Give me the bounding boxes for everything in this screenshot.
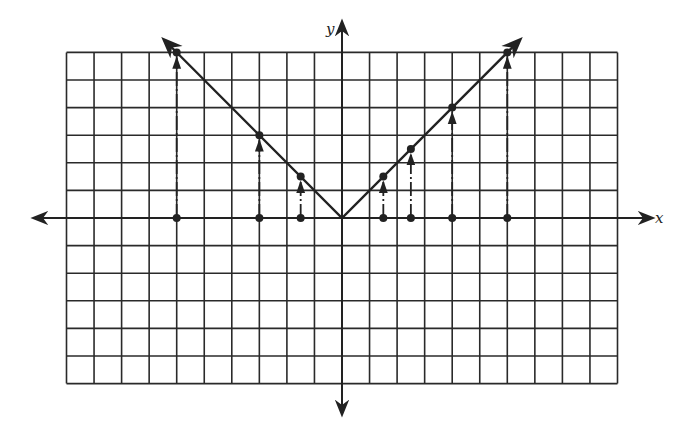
graph-point (503, 48, 511, 56)
x-axis-point (503, 214, 511, 222)
absolute-value-graph: x y (0, 0, 696, 424)
x-axis-point (297, 214, 305, 222)
x-axis-point (448, 214, 456, 222)
x-axis-point (173, 214, 181, 222)
graph-point (255, 131, 263, 139)
graph-point (407, 145, 415, 153)
x-axis-point (379, 214, 387, 222)
graph-point (448, 104, 456, 112)
graph-point (173, 48, 181, 56)
graph-point (297, 173, 305, 181)
x-axis-point (407, 214, 415, 222)
y-axis-label: y (325, 20, 335, 38)
x-axis-point (255, 214, 263, 222)
graph-point (379, 173, 387, 181)
x-axis-label: x (655, 209, 664, 227)
